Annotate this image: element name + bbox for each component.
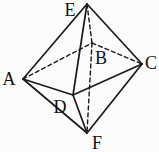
- octahedron-figure: EABCDF: [0, 0, 159, 152]
- octahedron-svg: EABCDF: [0, 0, 159, 152]
- vertex-label-e: E: [65, 0, 76, 20]
- edge-A-B-dashed: [23, 43, 92, 79]
- edge-lines: [23, 4, 142, 133]
- vertex-label-b: B: [95, 48, 107, 68]
- vertex-label-c: C: [145, 53, 157, 73]
- edge-A-D-solid: [23, 79, 73, 95]
- edge-D-C-solid: [73, 64, 142, 95]
- vertex-label-d: D: [54, 97, 67, 117]
- edge-C-F-solid: [87, 64, 142, 133]
- vertex-label-a: A: [3, 69, 16, 89]
- vertex-label-f: F: [92, 133, 102, 152]
